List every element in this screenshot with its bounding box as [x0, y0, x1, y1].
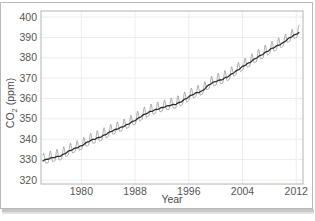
svg-text:CO2 (ppm): CO2 (ppm) — [4, 78, 19, 128]
x-axis-title: Year — [161, 193, 183, 205]
x-tick-label: 2012 — [285, 185, 309, 197]
co2-keeling-curve-chart: 320330340350360370380390400 198019881996… — [0, 0, 315, 221]
y-axis-tick-labels: 320330340350360370380390400 — [19, 11, 37, 186]
y-tick-label: 400 — [19, 11, 37, 23]
y-axis-title-main: CO — [4, 112, 16, 128]
y-tick-label: 370 — [19, 72, 37, 84]
y-tick-label: 330 — [19, 153, 37, 165]
y-tick-label: 360 — [19, 92, 37, 104]
x-tick-label: 2004 — [231, 185, 255, 197]
figure-container: 320330340350360370380390400 198019881996… — [0, 0, 315, 221]
x-tick-label: 1988 — [123, 185, 147, 197]
plot-area-background — [41, 11, 303, 184]
y-axis-title-unit: (ppm) — [4, 78, 16, 108]
y-tick-label: 320 — [19, 174, 37, 186]
x-tick-label: 1980 — [70, 185, 94, 197]
y-axis-title: CO2 (ppm) — [4, 78, 19, 128]
y-tick-label: 380 — [19, 51, 37, 63]
y-tick-label: 350 — [19, 112, 37, 124]
y-tick-label: 340 — [19, 133, 37, 145]
y-tick-label: 390 — [19, 31, 37, 43]
x-axis-tick-labels: 19801988199620042012 — [70, 185, 308, 197]
